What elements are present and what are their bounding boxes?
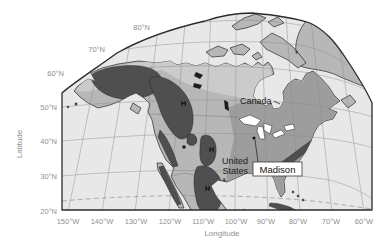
lon-tick: 140°W [91, 217, 115, 226]
madison-label: Madison [260, 164, 296, 175]
lat-tick: 20°N [40, 207, 57, 216]
h-marker: H [181, 100, 186, 107]
lon-tick: 150°W [57, 217, 81, 226]
lon-tick: 100°W [225, 217, 249, 226]
lon-tick: 120°W [159, 217, 183, 226]
aleutian-island [67, 106, 69, 108]
canada-label: Canada [240, 96, 272, 106]
longitude-ticks: 150°W 140°W 130°W 120°W 110°W 100°W 90°W… [57, 217, 374, 226]
highland-greenland-spot [352, 18, 356, 22]
lat-tick: 30°N [40, 172, 57, 181]
lat-tick: 60°N [47, 69, 64, 78]
highland-greenland-spot [361, 28, 365, 32]
longitude-axis-title: Longitude [204, 229, 240, 238]
highland-greenland-spot [342, 12, 346, 16]
aleutian-island [75, 103, 77, 105]
lat-tick: 40°N [40, 137, 57, 146]
h-marker: H [205, 185, 210, 192]
bahamas-island [292, 191, 294, 193]
map-figure: H H H Canada United States Madison 80°N … [0, 0, 392, 250]
latitude-axis-title: Latitude [15, 129, 24, 158]
lat-tick: 70°N [88, 45, 105, 54]
north-america-map: H H H Canada United States Madison 80°N … [0, 0, 392, 250]
great-salt-lake [182, 145, 186, 149]
lon-tick: 90°W [257, 217, 276, 226]
lon-tick: 60°W [355, 217, 374, 226]
h-marker: H [209, 146, 214, 153]
lon-tick: 70°W [322, 217, 341, 226]
lon-tick: 130°W [125, 217, 149, 226]
united-states-label-line1: United [222, 156, 248, 166]
hispaniola [302, 211, 312, 216]
bahamas-island [297, 195, 299, 197]
lat-tick: 80°N [133, 23, 150, 32]
lon-tick: 110°W [192, 217, 215, 226]
madison-dot [252, 136, 255, 139]
lat-tick: 50°N [40, 103, 57, 112]
bahamas-island [302, 199, 304, 201]
united-states-label-line2: States [222, 166, 248, 176]
lon-tick: 80°W [289, 217, 308, 226]
